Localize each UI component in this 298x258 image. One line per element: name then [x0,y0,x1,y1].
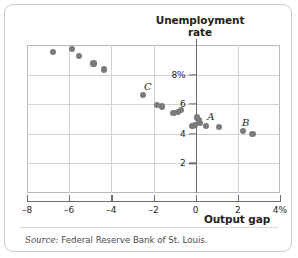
point-label-C: C [144,81,152,92]
source-text: Federal Reserve Bank of St. Louis. [61,235,207,245]
data-point-2 [76,53,82,59]
x-tick-mark-4 [196,195,197,202]
y-tick-mark-2 [189,104,196,105]
x-tick-label-3: –2 [148,205,158,215]
y-tick-mark-0 [189,163,196,164]
chart-title-line1: Unemployment [156,14,245,26]
data-point-3 [90,60,96,66]
y-tick-mark-1 [189,133,196,134]
figure-panel: Unemployment rate ABC 2468%–8–6–4–2024% … [4,4,292,252]
plot-area: ABC [27,45,280,193]
data-point-A [197,120,203,126]
x-tick-mark-5 [238,195,239,202]
point-label-A: A [207,111,214,122]
source-divider [20,227,278,228]
source-note: Source: Federal Reserve Bank of St. Loui… [25,235,208,245]
x-tick-label-1: –6 [64,205,74,215]
y-tick-label-2: 6 [156,99,186,109]
x-tick-mark-2 [111,195,112,202]
gridline-vertical-1 [69,45,70,193]
data-point-4 [101,66,107,72]
y-tick-label-0: 2 [156,158,186,168]
data-point-19 [249,131,255,137]
y-tick-label-1: 4 [156,129,186,139]
x-tick-label-0: –8 [22,205,32,215]
x-tick-mark-3 [154,195,155,202]
point-label-B: B [242,117,249,128]
y-tick-mark-3 [189,74,196,75]
x-tick-mark-0 [27,195,28,202]
x-tick-label-2: –4 [106,205,116,215]
y-tick-label-3: 8% [156,70,186,80]
x-tick-mark-6 [280,195,281,202]
gridline-vertical-2 [111,45,112,193]
chart-title-line2: rate [188,26,212,38]
source-label: Source: [25,235,59,245]
x-tick-mark-1 [69,195,70,202]
chart-title: Unemployment rate [135,14,265,38]
gridline-vertical-3 [154,45,155,193]
x-axis-title: Output gap [191,213,283,225]
gridline-vertical-5 [238,45,239,193]
